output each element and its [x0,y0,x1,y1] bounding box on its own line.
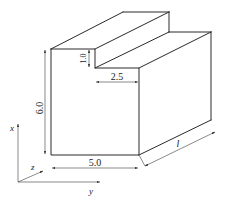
dimension-width: 5.0 [52,157,138,168]
dimension-height: 6.0 [34,50,45,154]
height-label: 6.0 [34,102,45,115]
block-outline [51,12,211,155]
dimension-step-height: 1.0 [79,50,89,67]
z-axis [18,171,43,182]
coordinate-axes: x y z [9,123,100,196]
y-axis-label: y [88,186,93,196]
z-axis-label: z [30,162,35,172]
length-label: l [177,138,180,149]
front-face-edge [51,49,139,155]
bottom-right-receding-edge [139,120,211,155]
step-height-label: 1.0 [79,54,88,64]
width-label: 5.0 [89,157,102,168]
right-top-receding-edge [139,32,211,68]
step-receding-edge-top [95,12,169,49]
dimension-step-width: 2.5 [96,71,138,82]
step-receding-edge-bottom [95,32,169,68]
top-left-receding-edge [51,12,123,49]
step-width-label: 2.5 [111,71,124,82]
x-axis-label: x [9,123,14,133]
stepped-block-diagram: 6.0 1.0 2.5 5.0 l x y z [0,0,225,203]
